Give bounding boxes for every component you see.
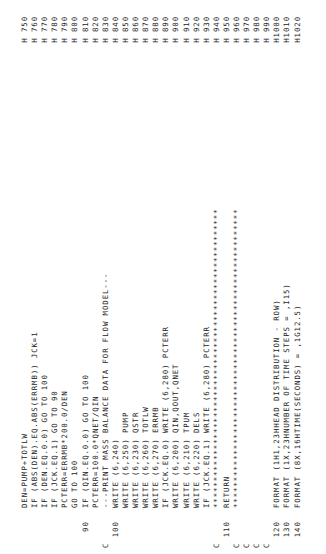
code-line: 110RETURNH 950 — [222, 8, 232, 548]
code-line: WRITE (6,230) QSTRH 860 — [131, 8, 141, 548]
statement-text: WRITE (6,220) DELS — [192, 412, 202, 508]
sequence-number: H1000 — [272, 16, 282, 43]
sequence-number: H 850 — [121, 16, 131, 43]
sequence-number: H1010 — [282, 16, 292, 43]
sequence-number: H 960 — [232, 16, 242, 43]
comment-line: CH 980 — [252, 8, 262, 548]
statement-label: 110 — [222, 508, 232, 548]
statement-text: WRITE (6,240) — [111, 438, 121, 508]
code-line: IF (JCK.EQ.0) WRITE (6,280) PCTERRH 890 — [161, 8, 171, 548]
statement-text: IF (DEN.EQ.0.0) GO TO 100 — [40, 374, 50, 508]
code-line: WRITE (6,220) DELSH 920 — [192, 8, 202, 548]
code-line: WRITE (6,260) TOTLWH 870 — [141, 8, 151, 548]
statement-text: WRITE (6,200) QIN,QOUT,QNET — [171, 364, 181, 508]
statement-text: WRITE (6,270) ERRMB — [151, 406, 161, 508]
sequence-number: H 980 — [252, 16, 262, 43]
sequence-number: H 880 — [151, 16, 161, 43]
code-line: 140FORMAT (8X,16HTIME(SECONDS) = ,1G12.5… — [293, 8, 303, 548]
code-line: GO TO 100H 800 — [70, 8, 80, 548]
statement-label: 130 — [282, 508, 292, 548]
comment-marker: C — [252, 508, 262, 548]
comment-line: C---PRINT MASS BALANCE DATA FOR FLOW MOD… — [101, 8, 111, 548]
code-line: WRITE (6,270) ERRMBH 880 — [151, 8, 161, 548]
code-line: PCTERR=ERRMB*200.0/DENH 790 — [60, 8, 70, 548]
sequence-number: H 990 — [262, 16, 272, 43]
comment-line: C***************************************… — [232, 8, 242, 548]
code-line: 90IF (QIN.EQ.0.0) GO TO 100H 810 — [81, 8, 91, 548]
statement-text: IF (JCK.EQ.0) WRITE (6,280) PCTERR — [161, 326, 171, 508]
sequence-number: H 750 — [20, 16, 30, 43]
sequence-number: H 800 — [70, 16, 80, 43]
statement-text: IF (JCK.EQ.1) GO TO 90 — [50, 390, 60, 508]
code-line: WRITE (6,250) PUMPH 850 — [121, 8, 131, 548]
code-line: IF (JCK.EQ.1) WRITE (6,280) PCTERRH 930 — [202, 8, 212, 548]
statement-text: FORMAT (8X,16HTIME(SECONDS) = ,1G12.5) — [293, 305, 303, 508]
sequence-number: H 820 — [91, 16, 101, 43]
statement-text: WRITE (6,250) PUMP — [121, 412, 131, 508]
statement-text: PCTERR=ERRMB*200.0/DEN — [60, 390, 70, 508]
code-line: IF (JCK.EQ.1) GO TO 90H 780 — [50, 8, 60, 548]
comment-marker: C — [212, 508, 222, 548]
comment-marker: C — [232, 508, 242, 548]
statement-text: FORMAT (1H1,23HHEAD DISTRIBUTION - ROW) — [272, 299, 282, 508]
sequence-number: H 970 — [242, 16, 252, 43]
statement-text: GO TO 100 — [70, 460, 80, 508]
code-line: PCTERR=100.0*QNET/QINH 820 — [91, 8, 101, 548]
sequence-number: H 830 — [101, 16, 111, 43]
comment-text: ---PRINT MASS BALANCE DATA FOR FLOW MODE… — [101, 273, 111, 508]
comment-line: CH 990 — [262, 8, 272, 548]
sequence-number: H 910 — [182, 16, 192, 43]
code-line: 130FORMAT (1X,23HNUMBER OF TIME STEPS = … — [282, 8, 292, 548]
comment-separator: ****************************************… — [232, 208, 242, 508]
sequence-number: H 890 — [161, 16, 171, 43]
sequence-number: H 840 — [111, 16, 121, 43]
statement-label: 100 — [111, 508, 121, 548]
sequence-number: H 920 — [192, 16, 202, 43]
code-line: 100WRITE (6,240)H 840 — [111, 8, 121, 548]
comment-marker: C — [262, 508, 272, 548]
sequence-number: H1020 — [293, 16, 303, 43]
statement-text: IF (QIN.EQ.0.0) GO TO 100 — [81, 374, 91, 508]
statement-label: 120 — [272, 508, 282, 548]
code-line: IF (ABS(DEN).EQ.ABS(ERRMB)) JCK=1H 760 — [30, 8, 40, 548]
statement-text: WRITE (6,230) QSTR — [131, 412, 141, 508]
statement-label: 140 — [293, 508, 303, 548]
statement-text: FORMAT (1X,23HNUMBER OF TIME STEPS = ,I1… — [282, 283, 292, 508]
sequence-number: H 940 — [212, 16, 222, 43]
rotated-page: DEN=PUMP+TOTLWH 750 IF (ABS(DEN).EQ.ABS(… — [0, 0, 326, 554]
sequence-number: H 790 — [60, 16, 70, 43]
comment-separator: ****************************************… — [212, 208, 222, 508]
sequence-number: H 930 — [202, 16, 212, 43]
code-line: WRITE (6,210) TPUMH 910 — [182, 8, 192, 548]
statement-text: IF (ABS(DEN).EQ.ABS(ERRMB)) JCK=1 — [30, 331, 40, 508]
fortran-listing: DEN=PUMP+TOTLWH 750 IF (ABS(DEN).EQ.ABS(… — [20, 8, 303, 548]
statement-text: RETURN — [222, 476, 232, 508]
code-line: WRITE (6,200) QIN,QOUT,QNETH 900 — [171, 8, 181, 548]
sequence-number: H 760 — [30, 16, 40, 43]
statement-text: PCTERR=100.0*QNET/QIN — [91, 396, 101, 508]
code-line: IF (DEN.EQ.0.0) GO TO 100H 770 — [40, 8, 50, 548]
comment-line: C***************************************… — [212, 8, 222, 548]
comment-line: CH 970 — [242, 8, 252, 548]
statement-text: WRITE (6,260) TOTLW — [141, 406, 151, 508]
sequence-number: H 860 — [131, 16, 141, 43]
sequence-number: H 810 — [81, 16, 91, 43]
comment-marker: C — [242, 508, 252, 548]
sequence-number: H 770 — [40, 16, 50, 43]
sequence-number: H 870 — [141, 16, 151, 43]
sequence-number: H 950 — [222, 16, 232, 43]
statement-text: WRITE (6,210) TPUM — [182, 412, 192, 508]
statement-text: DEN=PUMP+TOTLW — [20, 433, 30, 508]
sequence-number: H 900 — [171, 16, 181, 43]
sequence-number: H 780 — [50, 16, 60, 43]
comment-marker: C — [101, 508, 111, 548]
code-line: DEN=PUMP+TOTLWH 750 — [20, 8, 30, 548]
statement-text: IF (JCK.EQ.1) WRITE (6,280) PCTERR — [202, 326, 212, 508]
code-line: 120FORMAT (1H1,23HHEAD DISTRIBUTION - RO… — [272, 8, 282, 548]
statement-label: 90 — [81, 508, 91, 548]
